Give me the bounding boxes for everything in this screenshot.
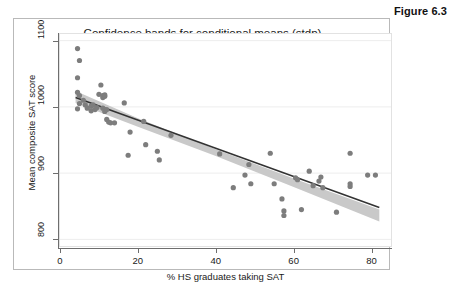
x-axis-tick — [138, 248, 139, 253]
x-axis-tick-label: 0 — [40, 255, 80, 266]
scatter-plot-svg — [60, 34, 391, 246]
y-axis-tick — [53, 107, 58, 108]
x-axis-tick — [60, 248, 61, 253]
y-axis-title: Mean composite SAT score — [26, 53, 37, 213]
x-axis-tick-label: 40 — [196, 255, 236, 266]
y-axis-tick — [53, 173, 58, 174]
y-axis-tick — [53, 239, 58, 240]
plot-area — [59, 33, 392, 247]
figure-caption: Figure 6.3 — [394, 5, 447, 17]
figure-panel: Confidence bands for conditional means (… — [13, 18, 390, 270]
regression-line — [76, 98, 380, 208]
y-axis-tick — [53, 41, 58, 42]
x-axis-tick-label: 60 — [274, 255, 314, 266]
x-axis-tick-label: 80 — [352, 255, 392, 266]
x-axis-tick — [372, 248, 373, 253]
x-axis-line — [58, 248, 392, 249]
x-axis-title: % HS graduates taking SAT — [59, 271, 392, 282]
data-points — [75, 46, 378, 218]
confidence-band — [76, 91, 380, 222]
figure-root: Figure 6.3 Confidence bands for conditio… — [0, 0, 453, 292]
x-axis-tick — [294, 248, 295, 253]
x-axis-tick-label: 20 — [118, 255, 158, 266]
x-axis-tick — [216, 248, 217, 253]
gridlines — [60, 41, 391, 240]
